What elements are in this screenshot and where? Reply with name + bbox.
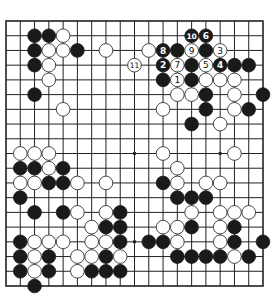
move-number-label: 1 — [174, 75, 180, 85]
black-stone — [56, 206, 70, 220]
white-stone — [42, 73, 56, 87]
white-stone — [28, 147, 42, 161]
black-stone — [199, 88, 213, 102]
white-stone — [99, 44, 113, 58]
white-stone — [170, 176, 184, 190]
white-stone — [170, 235, 184, 249]
white-stone — [170, 220, 184, 234]
white-stone — [213, 73, 227, 87]
white-stone — [42, 235, 56, 249]
black-stone — [13, 264, 27, 278]
white-stone — [56, 102, 70, 116]
white-stone — [28, 250, 42, 264]
black-stone — [71, 44, 85, 58]
white-stone-move-3: 3 — [213, 44, 227, 58]
black-stone — [156, 176, 170, 190]
black-stone — [28, 29, 42, 43]
white-stone — [99, 176, 113, 190]
black-stone — [156, 235, 170, 249]
move-number-label: 10 — [186, 32, 196, 41]
white-stone — [71, 176, 85, 190]
white-stone — [56, 29, 70, 43]
black-stone — [28, 88, 42, 102]
black-stone — [185, 117, 199, 131]
black-stone — [185, 73, 199, 87]
white-stone — [42, 147, 56, 161]
black-stone — [13, 250, 27, 264]
white-stone — [85, 220, 99, 234]
move-number-label: 2 — [160, 60, 166, 70]
black-stone — [13, 191, 27, 205]
move-number-label: 7 — [174, 60, 180, 70]
white-stone — [170, 161, 184, 175]
white-stone — [56, 235, 70, 249]
white-stone — [56, 44, 70, 58]
white-stone — [142, 44, 156, 58]
black-stone-move-4: 4 — [213, 58, 227, 72]
white-stone — [213, 117, 227, 131]
white-stone — [71, 206, 85, 220]
black-stone — [56, 161, 70, 175]
black-stone — [99, 220, 113, 234]
white-stone — [42, 161, 56, 175]
white-stone — [242, 206, 256, 220]
black-stone — [199, 102, 213, 116]
black-stone — [42, 264, 56, 278]
black-stone — [142, 235, 156, 249]
white-stone — [28, 176, 42, 190]
white-stone — [113, 250, 127, 264]
black-stone — [113, 264, 127, 278]
black-stone-move-2: 2 — [156, 58, 170, 72]
white-stone — [99, 206, 113, 220]
white-stone — [13, 147, 27, 161]
black-stone — [242, 250, 256, 264]
black-stone — [170, 44, 184, 58]
move-number-label: 5 — [203, 60, 209, 70]
white-stone — [156, 220, 170, 234]
black-stone — [156, 73, 170, 87]
go-board: 1068931127541 — [0, 0, 274, 298]
white-stone — [199, 176, 213, 190]
white-stone — [213, 220, 227, 234]
black-stone — [228, 235, 242, 249]
black-stone — [242, 58, 256, 72]
black-stone — [28, 58, 42, 72]
white-stone — [71, 264, 85, 278]
black-stone — [199, 44, 213, 58]
white-stone — [228, 102, 242, 116]
black-stone — [99, 264, 113, 278]
black-stone — [113, 220, 127, 234]
move-number-label: 9 — [189, 46, 195, 56]
black-stone-move-8: 8 — [156, 44, 170, 58]
star-point — [133, 240, 137, 244]
white-stone — [185, 88, 199, 102]
black-stone-move-6: 6 — [199, 29, 213, 43]
white-stone — [71, 250, 85, 264]
white-stone — [42, 44, 56, 58]
white-stone — [228, 250, 242, 264]
black-stone — [213, 250, 227, 264]
black-stone-move-10: 10 — [185, 29, 199, 43]
black-stone — [170, 191, 184, 205]
black-stone — [242, 102, 256, 116]
star-point — [133, 152, 137, 156]
black-stone — [28, 206, 42, 220]
black-stone — [42, 29, 56, 43]
black-stone — [99, 250, 113, 264]
white-stone — [156, 102, 170, 116]
move-number-label: 11 — [130, 61, 140, 70]
move-number-label: 8 — [160, 46, 166, 56]
white-stone — [85, 235, 99, 249]
white-stone — [228, 73, 242, 87]
white-stone — [42, 58, 56, 72]
white-stone — [156, 147, 170, 161]
white-stone — [228, 88, 242, 102]
black-stone — [28, 161, 42, 175]
white-stone — [213, 176, 227, 190]
white-stone — [28, 235, 42, 249]
white-stone — [213, 235, 227, 249]
black-stone — [42, 250, 56, 264]
black-stone — [42, 176, 56, 190]
black-stone — [113, 206, 127, 220]
black-stone — [185, 220, 199, 234]
